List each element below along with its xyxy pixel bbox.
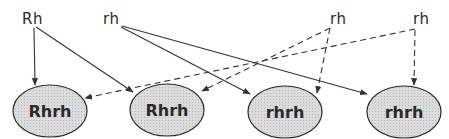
gamete-label-rh-3: rh (413, 11, 429, 27)
gamete-label-rh-1: rh (103, 11, 119, 27)
edge-rh3-to-offspring-2 (202, 28, 330, 91)
edge-Rh-to-offspring-1 (34, 28, 35, 85)
offspring-label-2: Rhrh (129, 84, 205, 136)
edge-Rh-to-offspring-2 (36, 27, 133, 92)
genetic-cross-diagram: Rh rh rh rh Rhrh Rhrh rhrh rhrh (0, 0, 449, 139)
gamete-label-Rh: Rh (22, 11, 43, 27)
offspring-label-3: rhrh (247, 86, 323, 138)
offspring-label-1: Rhrh (12, 85, 88, 137)
offspring-label-4: rhrh (366, 86, 442, 138)
edge-rh4-to-offspring-4 (414, 30, 415, 85)
gamete-label-rh-2: rh (330, 11, 346, 27)
edges (34, 26, 415, 98)
